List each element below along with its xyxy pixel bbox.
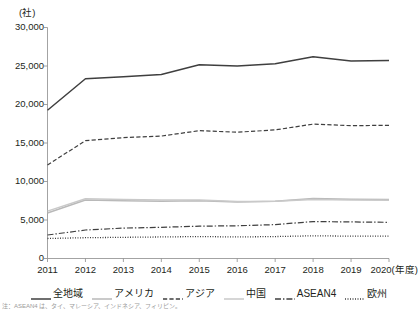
- legend-label: 全地域: [53, 288, 83, 300]
- legend-item[interactable]: アジア: [163, 288, 215, 300]
- series-line-4: [48, 222, 390, 235]
- line-chart-plot: [0, 0, 418, 311]
- legend-item[interactable]: ASEAN4: [275, 288, 336, 300]
- legend-item[interactable]: 欧州: [345, 288, 387, 300]
- legend-swatch-icon: [275, 289, 295, 298]
- legend-item[interactable]: 中国: [224, 288, 266, 300]
- legend-swatch-icon: [224, 289, 244, 298]
- series-lines: [48, 57, 390, 239]
- axis-ticks: [44, 28, 389, 263]
- legend-label: ASEAN4: [297, 288, 336, 300]
- series-line-5: [48, 236, 390, 239]
- series-line-2: [48, 124, 390, 165]
- chart-footnote: 注：ASEAN4 は、タイ、マレーシア、インドネシア、フィリピン。: [2, 302, 416, 310]
- legend-item[interactable]: 全地域: [31, 288, 83, 300]
- legend-swatch-icon: [31, 289, 51, 298]
- legend-item[interactable]: アメリカ: [92, 288, 154, 300]
- chart-legend: 全地域アメリカアジア中国ASEAN4欧州: [0, 286, 418, 301]
- axis-lines: [48, 28, 390, 259]
- legend-label: 欧州: [367, 288, 387, 300]
- legend-label: 中国: [246, 288, 266, 300]
- legend-label: アメリカ: [114, 288, 154, 300]
- chart-container: (社) 30,00025,00020,00015,00010,0005,0000…: [0, 0, 418, 311]
- legend-label: アジア: [185, 288, 215, 300]
- series-line-0: [48, 57, 390, 111]
- legend-swatch-icon: [92, 289, 112, 298]
- legend-swatch-icon: [163, 289, 183, 298]
- legend-swatch-icon: [345, 289, 365, 298]
